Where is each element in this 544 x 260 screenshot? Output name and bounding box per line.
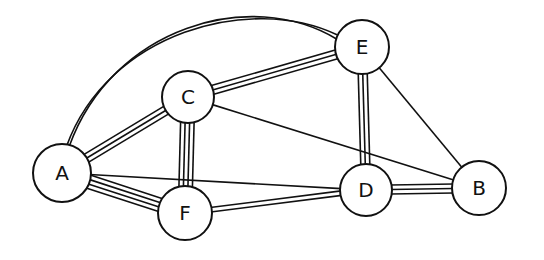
node-d: D (340, 164, 392, 216)
node-label: E (356, 35, 369, 59)
edge-c-f (179, 122, 194, 188)
edge-a-f (86, 175, 163, 211)
node-label: D (358, 178, 373, 202)
nodes-layer: ACEFDB (33, 20, 506, 240)
edge-a-c (83, 106, 169, 163)
edges-layer (67, 17, 463, 212)
edge-d-b (391, 184, 454, 194)
node-label: C (181, 85, 195, 109)
edge-c-e (210, 50, 338, 95)
graph-diagram: ACEFDB (0, 0, 544, 260)
node-b: B (452, 161, 506, 215)
node-label: A (55, 161, 69, 185)
node-a: A (33, 144, 91, 202)
graph-svg: ACEFDB (0, 0, 544, 260)
node-f: F (158, 186, 212, 240)
edge-e-b (378, 67, 462, 169)
node-c: C (162, 71, 214, 123)
node-e: E (335, 20, 389, 74)
node-label: F (179, 201, 191, 225)
node-label: B (472, 176, 486, 200)
edge-f-d (210, 191, 342, 212)
